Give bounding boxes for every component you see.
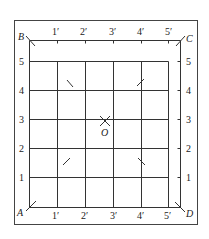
right-row-label-3: 3 <box>186 114 191 125</box>
bottom-col-label-1: 1′ <box>52 210 59 221</box>
left-row-label-5: 5 <box>19 56 24 67</box>
left-row-label-4: 4 <box>19 85 24 96</box>
right-row-label-4: 4 <box>186 85 191 96</box>
corner-mark-a <box>26 201 36 211</box>
top-col-label-3: 3′ <box>109 26 116 37</box>
inner-mark-upper-left <box>67 80 73 87</box>
center-label: O <box>101 127 108 138</box>
left-row-label-2: 2 <box>19 143 24 154</box>
corner-label-a: A <box>16 207 24 218</box>
top-col-label-1: 1′ <box>52 26 59 37</box>
right-row-label-5: 5 <box>186 56 191 67</box>
grid-diagram: O B C A D 1′ 2′ 3′ 4′ 5′ 1′ 2′ 3′ 4′ 5′ … <box>0 0 209 239</box>
corner-label-b: B <box>18 31 24 42</box>
bottom-col-label-5: 5′ <box>164 210 171 221</box>
left-row-label-1: 1 <box>19 172 24 183</box>
center-cross-icon <box>100 116 110 126</box>
top-col-label-2: 2′ <box>80 26 87 37</box>
top-col-label-4: 4′ <box>137 26 144 37</box>
bottom-col-label-2: 2′ <box>81 210 88 221</box>
right-row-label-1: 1 <box>186 172 191 183</box>
column-lines <box>58 62 169 208</box>
right-row-label-2: 2 <box>186 143 191 154</box>
inner-mark-lower-left <box>63 158 70 165</box>
row-lines <box>30 62 169 178</box>
bottom-col-label-3: 3′ <box>110 210 117 221</box>
left-row-label-3: 3 <box>19 114 24 125</box>
top-col-label-5: 5′ <box>165 26 172 37</box>
inner-mark-upper-right <box>137 79 144 86</box>
corner-marks <box>26 36 185 212</box>
corner-label-c: C <box>186 33 193 44</box>
corner-label-d: D <box>185 208 194 219</box>
bottom-col-label-4: 4′ <box>137 210 144 221</box>
